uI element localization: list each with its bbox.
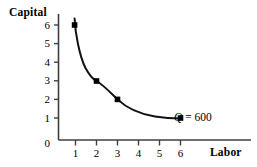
x-tick-label-6: 6 xyxy=(175,147,187,159)
curve-label-q600: Q = 600 xyxy=(174,111,212,123)
y-tick-label-2: 2 xyxy=(38,93,50,105)
y-tick-label-6: 6 xyxy=(38,19,50,31)
x-tick-label-3: 3 xyxy=(112,147,124,159)
x-tick-label-1: 1 xyxy=(70,147,82,159)
x-tick-label-4: 4 xyxy=(133,147,145,159)
data-point-1-6 xyxy=(72,22,78,28)
curve-label-value: = 600 xyxy=(182,111,212,123)
data-point-3-2 xyxy=(115,97,121,103)
y-tick-label-3: 3 xyxy=(38,74,50,86)
isoquant-chart: Capital Labor 6 5 4 3 2 1 0 1 2 3 4 5 6 … xyxy=(0,0,257,167)
x-axis-title: Labor xyxy=(210,146,242,158)
x-axis-ticks xyxy=(76,140,181,146)
data-point-2-3 xyxy=(94,78,100,84)
x-tick-label-5: 5 xyxy=(154,147,166,159)
y-tick-label-5: 5 xyxy=(38,37,50,49)
x-tick-label-2: 2 xyxy=(91,147,103,159)
origin-label: 0 xyxy=(38,137,50,149)
isoquant-curve xyxy=(75,19,181,119)
y-tick-label-4: 4 xyxy=(38,56,50,68)
y-axis-title: Capital xyxy=(9,6,47,18)
y-tick-label-1: 1 xyxy=(38,112,50,124)
